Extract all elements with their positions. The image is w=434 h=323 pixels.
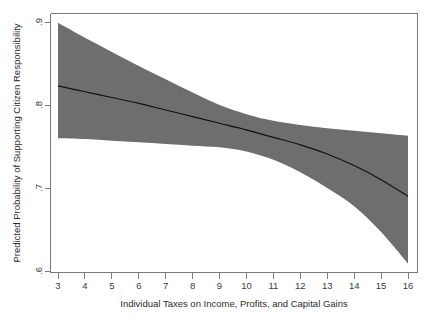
x-tick-label: 4 [82, 280, 87, 291]
x-tick-label: 14 [349, 280, 360, 291]
x-tick-label: 11 [268, 280, 278, 291]
x-tick-label: 12 [295, 280, 306, 291]
y-tick-label: .8 [33, 101, 44, 109]
figure-container: .6.7.8.9 345678910111213141516 Individua… [0, 0, 434, 323]
x-tick-label: 3 [55, 280, 60, 291]
y-tick-label: .6 [33, 267, 44, 275]
x-tick-label: 8 [190, 280, 195, 291]
x-axis-ticks: 345678910111213141516 [55, 273, 413, 292]
x-tick-label: 6 [136, 280, 141, 291]
y-axis-ticks: .6.7.8.9 [33, 18, 51, 275]
confidence-interval-band [58, 23, 408, 264]
y-axis-title: Predicted Probability of Supporting Citi… [11, 23, 22, 262]
x-tick-label: 9 [217, 280, 222, 291]
y-tick-label: .9 [33, 18, 44, 26]
x-tick-label: 13 [322, 280, 333, 291]
y-tick-label: .7 [33, 184, 44, 192]
x-tick-label: 10 [241, 280, 252, 291]
x-axis-title: Individual Taxes on Income, Profits, and… [120, 298, 348, 309]
chart-canvas: .6.7.8.9 345678910111213141516 Individua… [0, 0, 434, 323]
confidence-band-group [58, 23, 408, 264]
x-tick-label: 15 [376, 280, 387, 291]
x-tick-label: 5 [109, 280, 114, 291]
x-tick-label: 7 [163, 280, 168, 291]
x-tick-label: 16 [403, 280, 414, 291]
